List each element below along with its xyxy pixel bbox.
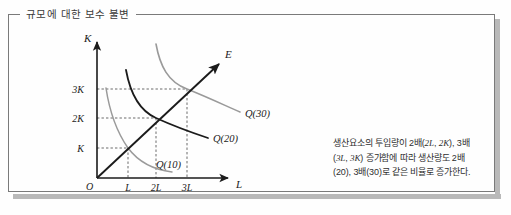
y-tick-label-K: K (76, 143, 85, 154)
x-axis-label: L (235, 178, 242, 190)
curve-label-q30: Q(30) (245, 108, 271, 120)
curve-label-q20: Q(20) (213, 133, 239, 145)
caption-l1-i2: 2K (439, 138, 449, 148)
caption-l1-a: 생산요소의 투입량이 2배( (333, 138, 425, 148)
figure-caption: 생산요소의 투입량이 2배(2L, 2K), 3배 (3L, 3K) 증가함에 … (333, 136, 499, 180)
caption-line-2: (3L, 3K) 증가함에 따라 생산량도 2배 (333, 151, 499, 166)
figure-root: 규모에 대한 보수 불변 K L O (0, 0, 511, 215)
caption-line-1: 생산요소의 투입량이 2배(2L, 2K), 3배 (333, 136, 499, 151)
caption-l1-c: ), 3배 (449, 138, 470, 148)
caption-l1-i1: 2L (425, 138, 434, 148)
curve-label-q10: Q(10) (156, 159, 182, 171)
origin-label: O (86, 181, 93, 192)
x-tick-label-2L: 2L (151, 182, 162, 193)
isoquant-chart: K L O K 2K 3K L 2L 3L Q(10) Q(20) Q(30) … (0, 0, 511, 215)
expansion-path-label: E (224, 48, 232, 60)
y-tick-label-2K: 2K (72, 113, 85, 124)
y-axis-label: K (83, 32, 92, 44)
x-tick-label-3L: 3L (181, 182, 193, 193)
caption-l2-i1: 3L (336, 153, 345, 163)
caption-l2-c: ) 증가함에 따라 생산량도 2배 (360, 153, 464, 163)
isoquant-curve-q20 (126, 70, 208, 138)
caption-l2-i2: 3K (350, 153, 360, 163)
x-tick-label-L: L (124, 182, 131, 193)
caption-line-3: (20), 3배(30)로 같은 비율로 증가한다. (333, 165, 499, 180)
y-tick-label-3K: 3K (71, 84, 85, 95)
